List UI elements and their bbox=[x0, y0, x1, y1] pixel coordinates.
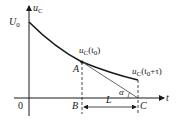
y-axis-label: uC bbox=[33, 3, 43, 15]
angle-label: α bbox=[119, 88, 124, 97]
point-c-label: C bbox=[140, 101, 147, 111]
point-b-label: B bbox=[72, 101, 78, 111]
origin-label: 0 bbox=[18, 101, 23, 111]
t-axis-label: t bbox=[166, 93, 169, 103]
uc-t0-label: uC(t0) bbox=[79, 46, 100, 57]
angle-arc bbox=[128, 93, 130, 98]
uc-t0-tau-label: uC(t0+τ) bbox=[132, 67, 162, 78]
length-label: L bbox=[106, 95, 112, 105]
point-a-label: A bbox=[73, 64, 79, 74]
diagram-graphics bbox=[0, 0, 177, 120]
capacitor-discharge-diagram: uC U0 uC(t0) uC(t0+τ) A 0 B C L α t bbox=[0, 0, 177, 120]
u0-label: U0 bbox=[9, 17, 20, 29]
